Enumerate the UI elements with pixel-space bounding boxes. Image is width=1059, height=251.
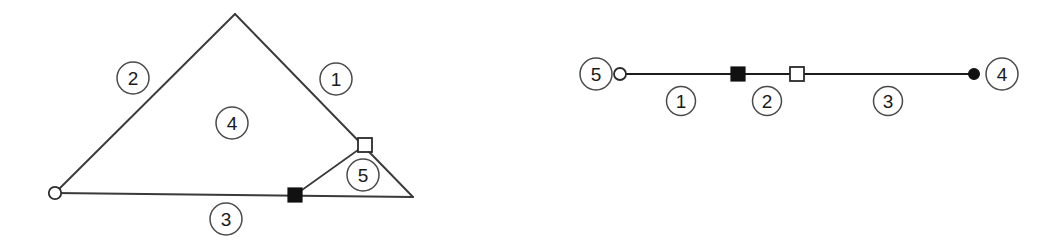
label-4-right: 4	[986, 58, 1018, 90]
label-3-right: 3	[874, 87, 903, 116]
edge-baseline	[55, 193, 413, 197]
label-text: 3	[883, 91, 894, 112]
label-text: 3	[221, 209, 232, 230]
node-open-square-right-edge	[358, 138, 372, 152]
label-4-left: 4	[216, 107, 248, 139]
label-1-right: 1	[667, 87, 696, 116]
node-filled-circle-path-end	[969, 69, 980, 80]
left-diagram-group: 1 2 3 4 5	[49, 14, 413, 235]
label-3-left: 3	[210, 203, 242, 235]
label-5-right: 5	[580, 58, 612, 90]
node-filled-square-path-mid-1	[731, 67, 745, 81]
diagram-canvas: 1 2 3 4 5	[0, 0, 1059, 251]
edge-left-apex	[55, 14, 235, 193]
label-text: 5	[591, 64, 602, 85]
node-filled-square-baseline	[288, 188, 302, 202]
label-2-right: 2	[753, 87, 782, 116]
node-open-circle-left-vertex	[49, 187, 61, 199]
label-1-left: 1	[320, 63, 352, 95]
node-open-circle-path-start	[614, 68, 626, 80]
right-diagram-group: 5 4 1 2 3	[580, 58, 1018, 116]
label-5-left: 5	[347, 159, 379, 191]
label-text: 2	[128, 68, 139, 89]
label-text: 1	[676, 91, 687, 112]
label-text: 1	[331, 69, 342, 90]
label-2-left: 2	[117, 62, 149, 94]
label-text: 2	[762, 91, 773, 112]
label-text: 4	[997, 64, 1008, 85]
figure-svg: 1 2 3 4 5	[0, 0, 1059, 251]
edge-apex-right	[235, 14, 413, 197]
node-open-square-path-mid-2	[790, 67, 804, 81]
label-text: 5	[358, 165, 369, 186]
label-text: 4	[227, 113, 238, 134]
